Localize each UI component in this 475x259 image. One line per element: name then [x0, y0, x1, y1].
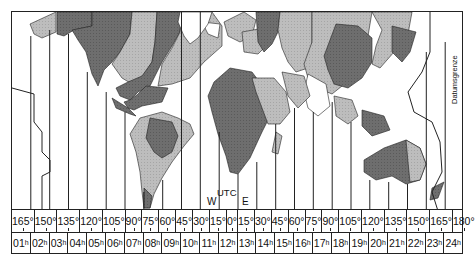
degree-cell: 60° — [159, 210, 176, 232]
hour-suffix: h — [382, 239, 386, 246]
tick-mark — [246, 228, 247, 231]
degree-label: 105° — [339, 215, 361, 227]
degree-label: 120° — [362, 215, 384, 227]
hour-cell: 05h — [87, 232, 106, 253]
south-america-landmass — [130, 112, 194, 208]
tick-mark — [330, 228, 331, 231]
hour-label: 04 — [69, 237, 81, 249]
degree-label: 45° — [176, 215, 192, 227]
hour-cell: 07h — [125, 232, 144, 253]
hour-label: 06 — [107, 237, 119, 249]
tick-mark — [134, 228, 135, 231]
degree-label: 165° — [12, 215, 34, 227]
hour-cell: 13h — [238, 232, 257, 253]
hour-cell: 24h — [444, 232, 462, 253]
hour-cell: 09h — [162, 232, 181, 253]
degree-label: 90° — [322, 215, 338, 227]
hour-label: 02 — [32, 237, 44, 249]
hour-suffix: h — [420, 239, 424, 246]
hour-label: 22 — [408, 237, 420, 249]
hour-label: 01 — [13, 237, 25, 249]
tick-mark — [218, 228, 219, 231]
hour-suffix: h — [344, 239, 348, 246]
degree-cell: 0° — [227, 210, 238, 232]
hour-label: 19 — [351, 237, 363, 249]
hour-label: 03 — [51, 237, 63, 249]
degree-cell: 165° — [12, 210, 35, 232]
degree-label: 105° — [103, 215, 125, 227]
tick-mark — [263, 228, 264, 231]
degree-cell: 75° — [306, 210, 323, 232]
hour-cell: 15h — [275, 232, 294, 253]
tick-mark — [350, 228, 351, 231]
hour-label: 10 — [182, 237, 194, 249]
degree-cell: 30° — [255, 210, 272, 232]
degree-label: 120° — [80, 215, 102, 227]
hour-suffix: h — [288, 239, 292, 246]
hour-suffix: h — [62, 239, 66, 246]
degree-label: 60° — [289, 215, 305, 227]
tick-mark — [46, 228, 47, 231]
hour-suffix: h — [156, 239, 160, 246]
degree-label: 0° — [227, 215, 237, 227]
hour-label: 09 — [163, 237, 175, 249]
degree-label: 180° — [453, 215, 475, 227]
degree-label: 135° — [57, 215, 79, 227]
utc-label: UTC — [217, 187, 237, 198]
tick-mark — [184, 228, 185, 231]
degree-label: 15° — [210, 215, 226, 227]
tick-mark — [464, 228, 465, 231]
hour-suffix: h — [119, 239, 123, 246]
degree-cell: 165° — [430, 210, 453, 232]
degree-cell: 135° — [385, 210, 408, 232]
hour-label: 18 — [333, 237, 345, 249]
hour-label: 07 — [126, 237, 138, 249]
hour-suffix: h — [232, 239, 236, 246]
degree-label: 15° — [238, 215, 254, 227]
degree-label: 150° — [35, 215, 57, 227]
hour-suffix: h — [250, 239, 254, 246]
map-graphic — [12, 12, 463, 210]
time-zone-scale: 165°150°135°120°105°90°75°60°45°30°15°0°… — [11, 209, 463, 254]
asia-landmass — [278, 12, 416, 136]
degree-cell: 135° — [57, 210, 80, 232]
hour-cell: 18h — [332, 232, 351, 253]
hour-cell: 21h — [388, 232, 407, 253]
degree-cell: 15° — [238, 210, 255, 232]
hour-label: 20 — [370, 237, 382, 249]
hour-cell: 12h — [219, 232, 238, 253]
degree-cell: 120° — [362, 210, 385, 232]
hour-suffix: h — [269, 239, 273, 246]
hour-label: 23 — [427, 237, 439, 249]
tick-mark — [91, 228, 92, 231]
degree-cell: 90° — [126, 210, 143, 232]
degree-cell: 45° — [272, 210, 289, 232]
dateline-label: Datumsgrenze — [450, 55, 459, 104]
hour-suffix: h — [81, 239, 85, 246]
west-label: W — [207, 196, 216, 207]
hour-suffix: h — [194, 239, 198, 246]
tick-mark — [280, 228, 281, 231]
hour-label: 08 — [145, 237, 157, 249]
tick-mark — [396, 228, 397, 231]
tick-mark — [373, 228, 374, 231]
tick-mark — [68, 228, 69, 231]
tick-mark — [23, 228, 24, 231]
hour-suffix: h — [326, 239, 330, 246]
tick-mark — [150, 228, 151, 231]
hour-cell: 22h — [407, 232, 426, 253]
degree-row: 165°150°135°120°105°90°75°60°45°30°15°0°… — [12, 210, 462, 233]
hour-label: 14 — [257, 237, 269, 249]
hour-suffix: h — [44, 239, 48, 246]
hour-label: 13 — [239, 237, 251, 249]
hour-cell: 10h — [181, 232, 200, 253]
hour-label: 11 — [201, 237, 212, 249]
tick-mark — [441, 228, 442, 231]
hour-row: 01h02h03h04h05h06h07h08h09h10h11h12h13h1… — [12, 232, 462, 253]
degree-label: 135° — [385, 215, 407, 227]
degree-cell: 30° — [193, 210, 210, 232]
degree-cell: 60° — [289, 210, 306, 232]
hour-suffix: h — [138, 239, 142, 246]
hour-suffix: h — [175, 239, 179, 246]
degree-label: 60° — [159, 215, 175, 227]
